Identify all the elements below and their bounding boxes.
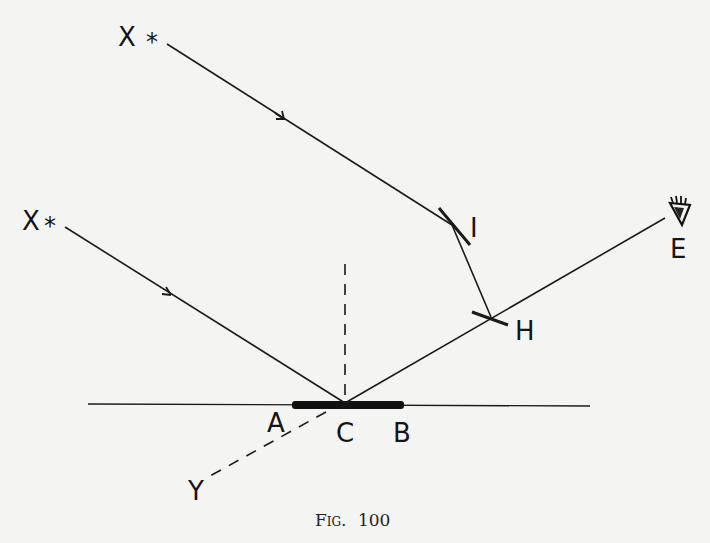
label-mirror-H: H — [515, 316, 535, 346]
caption-prefix: Fig. — [315, 510, 347, 530]
ray-lower-incident — [65, 227, 345, 403]
label-eye-E: E — [670, 234, 686, 264]
mirror-bar-AB — [292, 401, 404, 409]
label-star-lower: X — [22, 206, 40, 236]
label-point-C: C — [336, 418, 354, 448]
figure-caption: Fig. 100 — [315, 510, 390, 530]
eye-icon — [670, 196, 690, 225]
asterisk-star-icon: * — [44, 212, 56, 240]
label-star-upper: X — [118, 22, 136, 52]
optics-diagram: X * X * I H E A C B Y Fig. 100 — [0, 0, 710, 543]
label-point-A: A — [267, 408, 285, 438]
arrowhead-upper-icon — [275, 111, 284, 119]
label-point-B: B — [393, 418, 411, 448]
mirror-I — [439, 208, 470, 245]
caption-number: 100 — [358, 510, 390, 530]
ray-reflected-C-to-E — [345, 218, 665, 403]
asterisk-star-icon: * — [146, 28, 158, 56]
label-point-Y: Y — [187, 476, 204, 506]
ray-upper-incident — [167, 44, 452, 225]
label-mirror-I: I — [470, 213, 478, 243]
